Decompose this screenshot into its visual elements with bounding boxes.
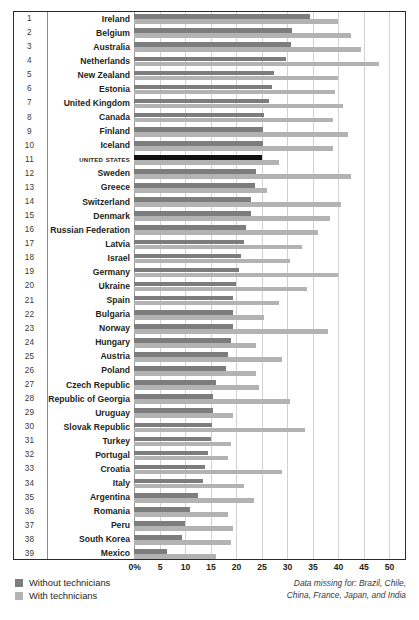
- row-rank: 14: [14, 197, 45, 206]
- bar-with-technicians: [134, 470, 282, 475]
- bar-without-technicians: [134, 282, 236, 287]
- bar-with-technicians: [134, 160, 279, 165]
- bar-without-technicians: [134, 169, 256, 174]
- bar-with-technicians: [134, 484, 244, 489]
- row-bars: [134, 265, 405, 279]
- bar-with-technicians: [134, 132, 348, 137]
- row-rank: 23: [14, 324, 45, 333]
- bar-without-technicians: [134, 310, 233, 315]
- bar-without-technicians: [134, 240, 244, 245]
- chart-row: 7United Kingdom: [14, 96, 405, 110]
- row-rank: 15: [14, 211, 45, 220]
- bar-with-technicians: [134, 245, 302, 250]
- row-rank: 17: [14, 239, 45, 248]
- x-axis-tick-labels: 0%5101520253035404550: [0, 562, 419, 576]
- bar-with-technicians: [134, 399, 290, 404]
- row-bars: [134, 167, 405, 181]
- row-bars: [134, 68, 405, 82]
- bar-without-technicians: [134, 99, 269, 104]
- row-bars: [134, 209, 405, 223]
- row-bars: [134, 462, 405, 476]
- row-rank: 19: [14, 267, 45, 276]
- bar-without-technicians: [134, 296, 233, 301]
- bar-without-technicians: [134, 394, 213, 399]
- row-rank: 1: [14, 14, 45, 23]
- bar-with-technicians: [134, 329, 328, 334]
- row-bars: [134, 477, 405, 491]
- row-country-label: Argentina: [47, 492, 130, 502]
- bar-without-technicians: [134, 155, 262, 160]
- chart-row: 30Slovak Republic: [14, 420, 405, 434]
- row-rank: 28: [14, 394, 45, 403]
- chart-rows: 1Ireland2Belgium3Australia4Netherlands5N…: [14, 12, 405, 559]
- chart-row: 38South Korea: [14, 533, 405, 547]
- row-country-label: Bulgaria: [47, 309, 130, 319]
- bar-with-technicians: [134, 442, 231, 447]
- bar-with-technicians: [134, 19, 338, 24]
- row-country-label: Ukraine: [47, 281, 130, 291]
- bar-with-technicians: [134, 512, 228, 517]
- bar-with-technicians: [134, 554, 216, 559]
- row-rank: 25: [14, 352, 45, 361]
- chart-row: 19Germany: [14, 265, 405, 279]
- row-rank: 11: [14, 155, 45, 164]
- row-country-label: Croatia: [47, 464, 130, 474]
- row-country-label: Denmark: [47, 211, 130, 221]
- row-country-label: Estonia: [47, 84, 130, 94]
- bar-without-technicians: [134, 14, 310, 19]
- bar-with-technicians: [134, 315, 264, 320]
- chart-row: 9Finland: [14, 125, 405, 139]
- row-country-label: Latvia: [47, 239, 130, 249]
- row-country-label: Poland: [47, 365, 130, 375]
- legend-label-without-technicians: Without technicians: [29, 577, 110, 588]
- bar-with-technicians: [134, 216, 330, 221]
- row-country-label: Finland: [47, 126, 130, 136]
- chart-row: 21Spain: [14, 294, 405, 308]
- row-country-label: Portugal: [47, 450, 130, 460]
- chart-row: 12Sweden: [14, 167, 405, 181]
- bar-with-technicians: [134, 118, 333, 123]
- row-rank: 18: [14, 253, 45, 262]
- row-country-label: Germany: [47, 267, 130, 277]
- chart-row: 20Ukraine: [14, 279, 405, 293]
- bar-with-technicians: [134, 202, 341, 207]
- row-country-label: Russian Federation: [47, 225, 130, 235]
- row-country-label: Spain: [47, 295, 130, 305]
- chart-row: 14Switzerland: [14, 195, 405, 209]
- chart-row: 36Romania: [14, 505, 405, 519]
- bar-without-technicians: [134, 211, 251, 216]
- x-tick-35: 35: [308, 562, 318, 572]
- bar-without-technicians: [134, 507, 190, 512]
- chart-note-line-1: Data missing for: Brazil, Chile,: [287, 578, 406, 590]
- bar-with-technicians: [134, 33, 351, 38]
- bar-without-technicians: [134, 451, 208, 456]
- x-tick-15: 15: [206, 562, 216, 572]
- bar-without-technicians: [134, 465, 205, 470]
- legend-item-with-technicians: With technicians: [15, 589, 110, 602]
- chart-row: 18Israel: [14, 251, 405, 265]
- bar-with-technicians: [134, 357, 282, 362]
- bar-with-technicians: [134, 47, 361, 52]
- bar-with-technicians: [134, 188, 267, 193]
- row-country-label: New Zealand: [47, 70, 130, 80]
- row-country-label: South Korea: [47, 534, 130, 544]
- row-bars: [134, 139, 405, 153]
- chart-row: 26Poland: [14, 364, 405, 378]
- bar-without-technicians: [134, 183, 255, 188]
- chart-page: 1Ireland2Belgium3Australia4Netherlands5N…: [0, 0, 419, 620]
- bar-without-technicians: [134, 197, 251, 202]
- bar-with-technicians: [134, 456, 228, 461]
- row-bars: [134, 251, 405, 265]
- chart-legend: Without technicians With technicians: [15, 576, 110, 602]
- row-rank: 9: [14, 127, 45, 136]
- row-country-label: United Kingdom: [47, 98, 130, 108]
- row-rank: 4: [14, 56, 45, 65]
- row-bars: [134, 350, 405, 364]
- chart-note: Data missing for: Brazil, Chile, China, …: [287, 578, 406, 601]
- row-bars: [134, 12, 405, 26]
- chart-row: 33Croatia: [14, 462, 405, 476]
- chart-row: 28Republic of Georgia: [14, 392, 405, 406]
- row-bars: [134, 322, 405, 336]
- bar-with-technicians: [134, 259, 290, 264]
- chart-row: 11United States: [14, 153, 405, 167]
